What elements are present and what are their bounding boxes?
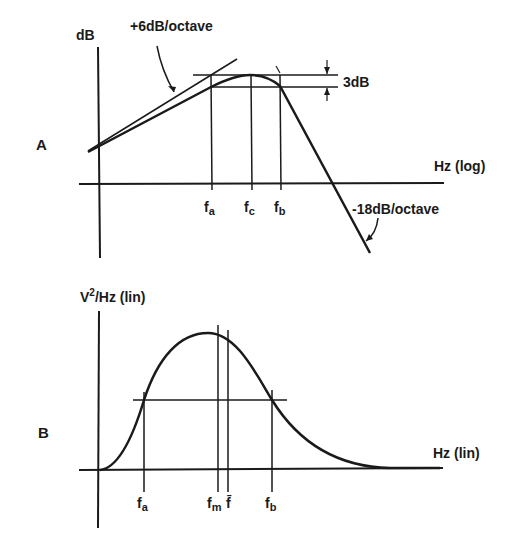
panel-b: B V2/Hz (lin) Hz (lin) fa fm f̄ fb (38, 287, 480, 528)
panel-a-label: A (36, 136, 47, 153)
rise-pointer-arrowhead (168, 86, 176, 92)
panel-a-y-axis (98, 47, 100, 258)
filter-response-diagram: A dB +6dB/octave Hz (log) 3dB -18dB/octa… (0, 0, 530, 553)
panel-a-x-axis-label: Hz (log) (434, 158, 485, 174)
fall-slope-label: -18dB/octave (352, 201, 439, 217)
marker-label-fc: fc (244, 199, 255, 217)
marker-label-fb-b: fb (265, 495, 277, 513)
panel-a: A dB +6dB/octave Hz (log) 3dB -18dB/octa… (36, 18, 485, 258)
panel-b-x-axis-label: Hz (lin) (433, 445, 480, 461)
marker-line-fa (211, 75, 212, 190)
marker-label-fa: fa (204, 199, 216, 217)
fb-tangent-tick (276, 66, 280, 73)
drop-label: 3dB (343, 74, 369, 90)
panel-b-label: B (38, 424, 49, 441)
rise-pointer (157, 46, 174, 92)
panel-b-spectrum-curve (100, 333, 440, 470)
marker-line-fc (251, 75, 252, 190)
panel-b-y-axis (98, 311, 99, 528)
panel-a-y-axis-label: dB (76, 27, 95, 43)
dimension-arrowhead-bottom (324, 88, 330, 95)
panel-a-x-axis (79, 183, 444, 184)
marker-label-fbar: f̄ (226, 494, 232, 511)
dimension-arrowhead-top (324, 67, 330, 74)
panel-a-response-curve (88, 75, 370, 253)
rise-asymptote-line (88, 59, 237, 151)
marker-label-fa-b: fa (137, 495, 149, 513)
marker-label-fm: fm (207, 495, 222, 513)
rise-slope-label: +6dB/octave (130, 18, 213, 34)
marker-line-fb (280, 75, 281, 190)
marker-label-fb: fb (274, 199, 286, 217)
panel-b-y-axis-label: V2/Hz (lin) (80, 287, 145, 305)
